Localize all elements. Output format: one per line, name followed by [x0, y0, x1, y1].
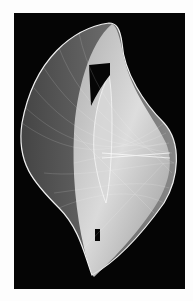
sculpture-graphic: [14, 13, 185, 289]
photo-frame: [14, 13, 185, 289]
dark-slot-bottom: [95, 229, 100, 241]
